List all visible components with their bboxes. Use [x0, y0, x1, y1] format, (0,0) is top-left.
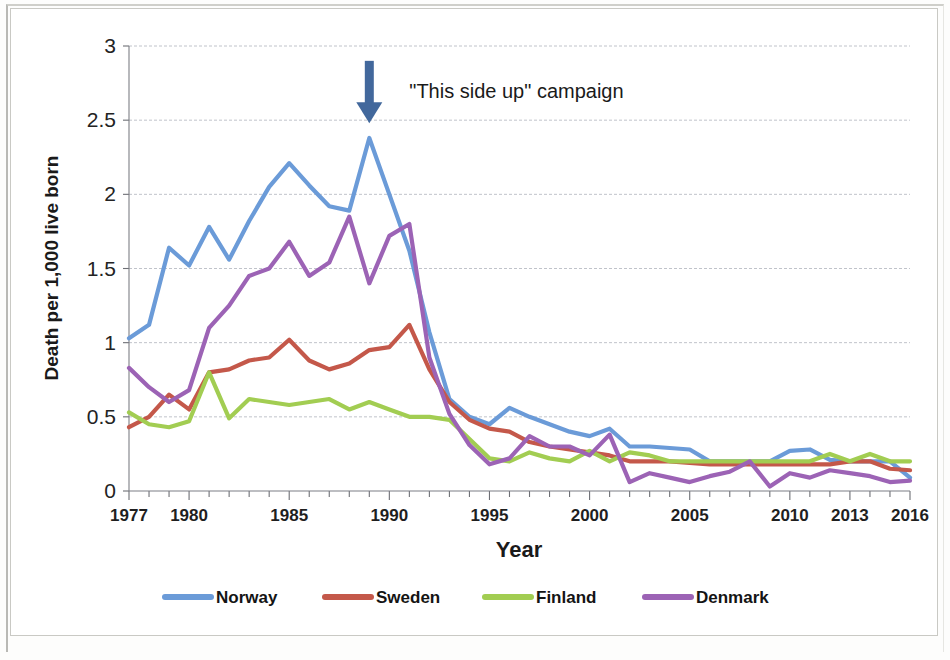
- x-tick-label: 2016: [891, 506, 929, 525]
- y-axis-title: Death per 1,000 live born: [41, 156, 62, 381]
- legend-label-norway: Norway: [216, 588, 278, 607]
- x-axis-ticks: 1977198019851990199520002005201020132016: [110, 491, 929, 525]
- x-tick-label: 1995: [471, 506, 509, 525]
- down-arrow-icon: [356, 61, 382, 123]
- legend-label-finland: Finland: [536, 588, 596, 607]
- line-chart: 00.511.522.53 19771980198519901995200020…: [0, 0, 950, 660]
- legend-label-denmark: Denmark: [696, 588, 769, 607]
- x-tick-label: 1980: [170, 506, 208, 525]
- campaign-annotation: "This side up" campaign: [356, 61, 623, 123]
- x-tick-label: 2005: [671, 506, 709, 525]
- y-tick-label: 1.5: [87, 257, 116, 280]
- legend-label-sweden: Sweden: [376, 588, 440, 607]
- y-tick-label: 0: [104, 479, 116, 502]
- series-line-denmark: [129, 217, 910, 487]
- y-tick-label: 1: [104, 331, 116, 354]
- y-tick-label: 2.5: [87, 108, 116, 131]
- page-canvas: 00.511.522.53 19771980198519901995200020…: [0, 0, 950, 660]
- x-tick-label: 2013: [831, 506, 869, 525]
- x-tick-label: 2000: [571, 506, 609, 525]
- x-axis-title: Year: [496, 537, 543, 562]
- y-axis-ticks: 00.511.522.53: [87, 34, 129, 502]
- chart-legend: NorwaySwedenFinlandDenmark: [165, 588, 769, 607]
- y-tick-label: 0.5: [87, 405, 116, 428]
- x-tick-label: 1977: [110, 506, 148, 525]
- y-tick-label: 3: [104, 34, 116, 57]
- x-tick-label: 1985: [270, 506, 308, 525]
- annotation-label: "This side up" campaign: [409, 80, 623, 102]
- x-tick-label: 2010: [771, 506, 809, 525]
- data-series-group: [129, 138, 910, 487]
- y-tick-label: 2: [104, 182, 116, 205]
- x-tick-label: 1990: [370, 506, 408, 525]
- series-line-norway: [129, 138, 910, 478]
